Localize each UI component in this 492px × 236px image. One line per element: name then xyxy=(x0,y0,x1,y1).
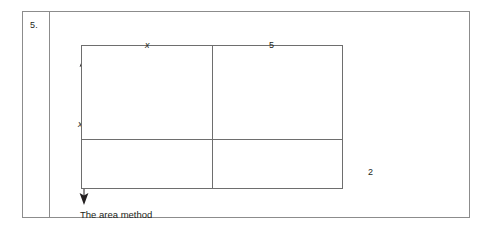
grid-horizontal-divider xyxy=(82,139,342,140)
grid-cell-top-right xyxy=(213,46,344,139)
area-model-grid xyxy=(81,45,343,189)
grid-cell-bottom-right xyxy=(213,140,344,190)
grid-cell-top-left xyxy=(82,46,212,139)
right-side-dimension-label: 2 xyxy=(368,167,373,177)
top-right-dimension-label: 5 xyxy=(269,40,274,50)
question-number-divider xyxy=(49,12,50,217)
grid-vertical-divider xyxy=(212,46,213,188)
question-number: 5. xyxy=(30,20,38,31)
grid-cell-bottom-left xyxy=(82,140,212,190)
exercise-box: 5. x x 5 2 The area method xyxy=(22,11,470,218)
top-left-dimension-label: x xyxy=(145,40,150,50)
figure-caption: The area method xyxy=(80,209,152,221)
